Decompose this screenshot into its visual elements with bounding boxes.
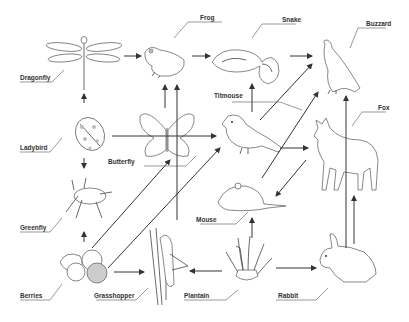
label-butterfly: Butterfly [108, 158, 135, 165]
greenfly-illustration [66, 178, 112, 218]
plantain-illustration [226, 236, 272, 280]
label-snake: Snake [282, 16, 301, 23]
food-web-diagram [0, 0, 409, 322]
label-berries: Berries [20, 292, 42, 299]
grasshopper-illustration [150, 228, 188, 305]
rabbit-illustration [320, 234, 376, 282]
label-rabbit: Rabbit [278, 292, 298, 299]
label-frog: Frog [200, 14, 214, 21]
buzzard-illustration [324, 40, 360, 94]
titmouse-illustration [222, 115, 282, 154]
label-ladybird: Ladybird [20, 144, 47, 151]
label-grasshopper: Grasshopper [94, 292, 134, 299]
ladybird-illustration [70, 113, 110, 156]
berries-illustration [60, 250, 107, 283]
label-buzzard: Buzzard [366, 20, 391, 27]
label-fox: Fox [378, 104, 390, 111]
dragonfly-illustration [46, 37, 123, 91]
frog-illustration [145, 47, 184, 78]
label-plantain: Plantain [184, 292, 209, 299]
snake-illustration [212, 50, 279, 84]
butterfly-illustration [140, 114, 194, 157]
label-greenfly: Greenfly [20, 224, 46, 231]
mouse-illustration [218, 183, 286, 211]
label-dragonfly: Dragonfly [20, 74, 50, 81]
label-mouse: Mouse [196, 216, 217, 223]
label-titmouse: Titmouse [214, 92, 243, 99]
